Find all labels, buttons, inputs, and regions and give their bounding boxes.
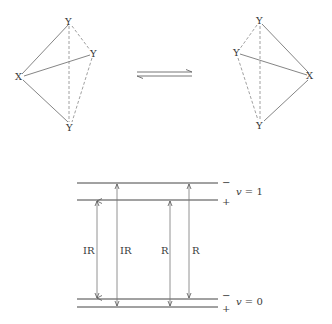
atom-label: X [306,70,314,81]
atom-label: X [15,71,23,82]
parity-plus: + [222,303,230,314]
transition-label-r: R [192,245,200,256]
parity-minus: − [222,290,230,301]
atom-label: Y [255,120,263,131]
transition-label-ir: IR [120,245,132,256]
parity-plus: + [222,196,230,207]
level-label-v0: v = 0 [236,296,263,307]
atom-label: Y [65,122,73,133]
atom-label: Y [89,48,97,59]
parity-minus: − [222,177,230,188]
energy-level-diagram: − + − + v = 1 v = 0 IR IR R R [77,177,263,314]
transition-label-r: R [161,245,169,256]
diagram-canvas: Y Y X Y Y Y X Y − + − + v = 1 v = 0 [0,0,332,324]
right-molecule: Y Y X Y [232,15,314,131]
atom-label: Y [64,16,72,27]
atom-label: Y [232,47,240,58]
equilibrium-arrows-icon [137,70,192,79]
level-label-v1: v = 1 [236,186,263,197]
atom-label: Y [255,15,263,26]
left-molecule: Y Y X Y [15,16,97,133]
transition-label-ir: IR [83,245,95,256]
